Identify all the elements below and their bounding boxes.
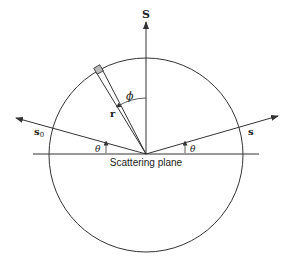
incident-vector-label: s0 xyxy=(34,126,44,139)
phi-label: ϕ xyxy=(126,90,134,103)
theta-left-label: θ xyxy=(95,144,101,154)
scattering-plane-label: Scattering plane xyxy=(110,157,183,168)
reflection-sphere-diagram: S s0 s r ϕ θ θ Scattering plane xyxy=(0,0,286,260)
scattered-vector-label: s xyxy=(248,126,254,137)
normal-vector-label: S xyxy=(142,8,150,21)
theta-right-label: θ xyxy=(190,144,196,154)
scattered-vector-arrow xyxy=(146,116,278,154)
diagram-canvas: S s0 s r ϕ θ θ Scattering plane xyxy=(0,0,286,260)
radius-label: r xyxy=(110,108,116,119)
radius-rod xyxy=(94,65,146,154)
